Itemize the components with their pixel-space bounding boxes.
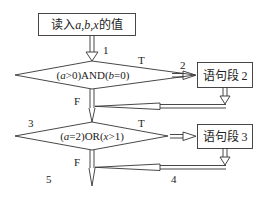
statement-2-label: 语句段 2 — [203, 68, 248, 83]
condition-1-text: (a>0)AND(b=0) — [57, 69, 130, 82]
path-label-1: 1 — [103, 44, 109, 56]
cond2-true-label: T — [138, 117, 145, 129]
path-label-2: 2 — [180, 59, 186, 71]
arrow-cond1-false — [89, 89, 95, 122]
flowchart-canvas: 读入a,b,x的值 1 (a>0)AND(b=0) T 2 语句段 2 F 3 … — [0, 0, 267, 197]
stmt2-return-arrow — [95, 103, 226, 110]
stmt3-return-arrow — [95, 164, 226, 171]
arrow-cond2-true — [170, 132, 196, 141]
path-label-5: 5 — [46, 173, 52, 185]
input-box-label: 读入a,b,x的值 — [51, 17, 122, 32]
cond2-false-label: F — [74, 156, 80, 168]
path-label-4: 4 — [171, 173, 177, 185]
cond1-false-label: F — [74, 95, 80, 107]
stmt3-down-arrow — [220, 149, 230, 166]
arrow-exit — [89, 150, 95, 186]
statement-3-label: 语句段 3 — [203, 129, 248, 144]
stmt2-down-arrow — [220, 88, 230, 105]
cond1-true-label: T — [138, 54, 145, 66]
arrow-1 — [86, 36, 98, 62]
condition-2-text: (a=2)OR(x>1) — [60, 130, 124, 143]
path-label-3: 3 — [28, 117, 34, 129]
